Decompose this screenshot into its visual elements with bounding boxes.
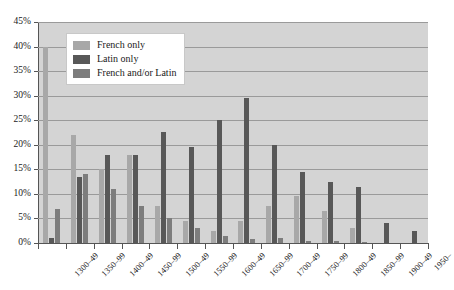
x-axis-tick-label: 1750–99 xyxy=(323,251,350,278)
bar-group xyxy=(261,22,289,243)
x-axis-tick-label: 1600–49 xyxy=(240,251,267,278)
bar[interactable] xyxy=(71,135,76,243)
x-axis-tick-label: 1300–49 xyxy=(73,251,100,278)
x-axis-tick xyxy=(38,244,39,249)
legend-item[interactable]: French only xyxy=(73,38,176,52)
bar-group xyxy=(372,22,400,243)
y-axis-tick xyxy=(34,218,38,219)
legend-swatch xyxy=(73,41,90,50)
legend-swatch xyxy=(73,55,90,64)
bar[interactable] xyxy=(244,98,249,243)
bar[interactable] xyxy=(306,241,311,243)
y-axis-tick-label: 40% xyxy=(0,42,31,52)
bar[interactable] xyxy=(49,238,54,243)
bar[interactable] xyxy=(384,223,389,243)
x-axis-tick xyxy=(372,244,373,249)
y-axis-tick xyxy=(34,71,38,72)
legend-item[interactable]: French and/or Latin xyxy=(73,66,176,80)
bar[interactable] xyxy=(294,196,299,243)
bar-group xyxy=(344,22,372,243)
x-axis-tick-label: 1450–99 xyxy=(156,251,183,278)
x-axis-tick xyxy=(94,244,95,249)
y-axis-tick xyxy=(34,169,38,170)
y-axis xyxy=(0,22,38,243)
bar-group xyxy=(289,22,317,243)
bar[interactable] xyxy=(356,187,361,243)
x-axis-tick xyxy=(289,244,290,249)
bar[interactable] xyxy=(77,177,82,243)
bar[interactable] xyxy=(350,228,355,243)
x-axis-tick-label: 1950– xyxy=(432,251,453,272)
bar[interactable] xyxy=(300,172,305,243)
bar[interactable] xyxy=(217,120,222,243)
x-axis-tick xyxy=(344,244,345,249)
y-axis-tick-label: 5% xyxy=(0,213,31,223)
bar[interactable] xyxy=(167,218,172,243)
bar[interactable] xyxy=(139,206,144,243)
legend-label: French only xyxy=(97,40,145,50)
x-axis-tick-label: 1900–49 xyxy=(407,251,434,278)
bar[interactable] xyxy=(99,169,104,243)
x-axis-tick xyxy=(122,244,123,249)
bar[interactable] xyxy=(183,221,188,243)
bar[interactable] xyxy=(55,209,60,243)
y-axis-tick-label: 20% xyxy=(0,140,31,150)
legend-swatch xyxy=(73,69,90,78)
bar[interactable] xyxy=(223,236,228,243)
y-axis-tick-label: 15% xyxy=(0,164,31,174)
x-axis-tick xyxy=(233,244,234,249)
bar[interactable] xyxy=(189,147,194,243)
bar[interactable] xyxy=(111,189,116,243)
y-axis-tick xyxy=(34,194,38,195)
y-axis-tick-label: 10% xyxy=(0,189,31,199)
bar-group xyxy=(400,22,428,243)
x-axis-tick xyxy=(400,244,401,249)
bar[interactable] xyxy=(322,211,327,243)
bar[interactable] xyxy=(266,206,271,243)
bar[interactable] xyxy=(211,231,216,243)
bar[interactable] xyxy=(238,221,243,243)
y-axis-tick xyxy=(34,47,38,48)
y-axis-tick xyxy=(34,22,38,23)
y-axis-tick xyxy=(34,145,38,146)
bar[interactable] xyxy=(83,174,88,243)
bar[interactable] xyxy=(328,182,333,243)
bar[interactable] xyxy=(195,228,200,243)
legend: French onlyLatin onlyFrench and/or Latin xyxy=(66,33,185,85)
x-axis-tick xyxy=(428,244,429,249)
x-axis-tick-label: 1800–49 xyxy=(351,251,378,278)
y-axis-tick-label: 0% xyxy=(0,238,31,248)
y-axis-tick-label: 30% xyxy=(0,91,31,101)
bar[interactable] xyxy=(133,155,138,243)
bar[interactable] xyxy=(272,145,277,243)
bar[interactable] xyxy=(105,155,110,243)
bar[interactable] xyxy=(127,155,132,243)
bar[interactable] xyxy=(334,241,339,243)
bar[interactable] xyxy=(155,206,160,243)
x-axis-tick-label: 1850–99 xyxy=(379,251,406,278)
x-axis-tick-label: 1350–99 xyxy=(100,251,127,278)
y-axis-tick xyxy=(34,243,38,244)
bar[interactable] xyxy=(362,242,367,243)
bar[interactable] xyxy=(250,239,255,243)
y-axis-tick-label: 35% xyxy=(0,66,31,76)
legend-item[interactable]: Latin only xyxy=(73,52,176,66)
x-axis-tick-label: 1700–49 xyxy=(295,251,322,278)
y-axis-tick-label: 25% xyxy=(0,115,31,125)
x-axis-tick-label: 1500–49 xyxy=(184,251,211,278)
bar-group xyxy=(38,22,66,243)
legend-label: Latin only xyxy=(97,54,138,64)
bar-group xyxy=(317,22,345,243)
bar[interactable] xyxy=(43,47,48,243)
bar-group xyxy=(233,22,261,243)
x-axis-tick xyxy=(317,244,318,249)
y-axis-tick-label: 45% xyxy=(0,17,31,27)
bar[interactable] xyxy=(278,238,283,243)
x-axis-tick xyxy=(66,244,67,249)
bar[interactable] xyxy=(161,132,166,243)
x-axis-tick xyxy=(261,244,262,249)
x-axis-tick xyxy=(205,244,206,249)
bar[interactable] xyxy=(412,231,417,243)
x-axis-tick xyxy=(149,244,150,249)
